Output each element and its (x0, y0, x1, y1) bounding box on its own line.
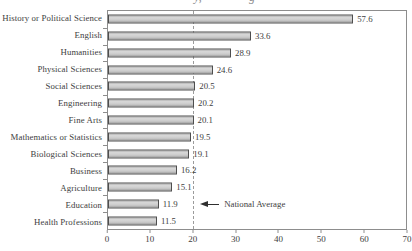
national-average-label: National Average (224, 199, 285, 209)
bars-container: 57.633.628.924.620.520.220.119.519.116.2… (108, 11, 406, 229)
bar-row: 33.6 (108, 28, 406, 45)
x-tick: 30 (231, 230, 240, 244)
x-tick: 60 (360, 230, 369, 244)
x-tick: 50 (317, 230, 326, 244)
value-label: 11.9 (163, 199, 178, 209)
x-tick-label: 20 (188, 234, 197, 244)
bar-social-sciences (108, 82, 195, 91)
x-tick-label: 50 (317, 234, 326, 244)
bar-fine-arts (108, 115, 194, 124)
category-axis-tick (103, 162, 108, 163)
value-label: 28.9 (235, 48, 250, 58)
value-label: 57.6 (357, 14, 372, 24)
bar-mathematics-or-statistics (108, 132, 191, 141)
national-average-annotation: National Average (200, 199, 285, 209)
x-tick-mark (149, 230, 150, 233)
value-label: 16.2 (181, 165, 196, 175)
value-label: 33.6 (255, 31, 270, 41)
x-tick-mark (407, 230, 408, 233)
bar-education (108, 199, 159, 208)
bar-agriculture (108, 183, 172, 192)
left-arrow-icon (200, 201, 208, 207)
category-label: Agriculture (0, 179, 102, 196)
cropped-title-fragment: y, g (0, 0, 412, 6)
x-tick-mark (364, 230, 365, 233)
x-tick-label: 40 (274, 234, 283, 244)
category-label: Mathematics or Statistics (0, 128, 102, 145)
bar-row: 57.6 (108, 11, 406, 28)
x-tick-label: 70 (403, 234, 412, 244)
x-axis: 010203040506070 (107, 230, 407, 248)
x-tick: 10 (145, 230, 154, 244)
bar-row: 19.1 (108, 145, 406, 162)
x-tick: 70 (403, 230, 412, 244)
bar-row: 28.9 (108, 45, 406, 62)
bar-engineering (108, 99, 194, 108)
value-label: 19.1 (193, 149, 208, 159)
bar-row: 15.1 (108, 179, 406, 196)
x-tick: 40 (274, 230, 283, 244)
plot-area: 57.633.628.924.620.520.220.119.519.116.2… (107, 10, 407, 230)
category-label: English (0, 27, 102, 44)
category-axis-tick (103, 45, 108, 46)
bar-row: 20.2 (108, 95, 406, 112)
value-label: 11.5 (161, 216, 176, 226)
x-tick-label: 10 (145, 234, 154, 244)
value-label: 15.1 (176, 182, 191, 192)
x-tick: 0 (105, 230, 110, 244)
bar-row: 16.2 (108, 162, 406, 179)
category-axis-tick (103, 112, 108, 113)
category-label: Education (0, 196, 102, 213)
left-arrow-tail (208, 204, 219, 205)
bar-row: 20.1 (108, 112, 406, 129)
category-axis-tick (103, 212, 108, 213)
value-label: 20.1 (198, 115, 213, 125)
category-axis-tick (103, 61, 108, 62)
category-label: History or Political Science (0, 10, 102, 27)
x-tick-label: 0 (105, 234, 110, 244)
x-tick-mark (235, 230, 236, 233)
bar-health-professions (108, 216, 157, 225)
bar-business (108, 166, 177, 175)
bar-history-or-political-science (108, 15, 353, 24)
bar-physical-sciences (108, 65, 213, 74)
category-label: Physical Sciences (0, 61, 102, 78)
value-label: 20.2 (198, 98, 213, 108)
bar-chart-figure: y, g History or Political ScienceEnglish… (0, 0, 412, 251)
category-axis-tick (103, 128, 108, 129)
category-label: Engineering (0, 95, 102, 112)
category-axis-tick (103, 179, 108, 180)
value-label: 19.5 (195, 132, 210, 142)
x-tick-mark (192, 230, 193, 233)
x-tick: 20 (188, 230, 197, 244)
title-descender-right: g (249, 0, 255, 5)
bar-row: 11.5 (108, 212, 406, 229)
x-tick-label: 60 (360, 234, 369, 244)
category-axis-tick (103, 95, 108, 96)
bar-biological-sciences (108, 149, 189, 158)
category-axis-tick (103, 195, 108, 196)
bar-humanities (108, 48, 231, 57)
category-label: Humanities (0, 44, 102, 61)
bar-row: 24.6 (108, 61, 406, 78)
category-label: Social Sciences (0, 78, 102, 95)
category-label: Fine Arts (0, 112, 102, 129)
category-axis-tick (103, 145, 108, 146)
category-label: Business (0, 162, 102, 179)
bar-row: 20.5 (108, 78, 406, 95)
value-label: 20.5 (199, 81, 214, 91)
x-tick-mark (107, 230, 108, 233)
category-axis-labels: History or Political ScienceEnglishHuman… (0, 10, 102, 230)
bar-english (108, 32, 251, 41)
value-label: 24.6 (217, 65, 232, 75)
title-descender-left: y, (194, 0, 202, 5)
x-tick-mark (321, 230, 322, 233)
category-axis-tick (103, 28, 108, 29)
category-axis-tick (103, 78, 108, 79)
x-tick-label: 30 (231, 234, 240, 244)
category-label: Biological Sciences (0, 145, 102, 162)
x-tick-mark (278, 230, 279, 233)
category-label: Health Professions (0, 213, 102, 230)
bar-row: 19.5 (108, 128, 406, 145)
